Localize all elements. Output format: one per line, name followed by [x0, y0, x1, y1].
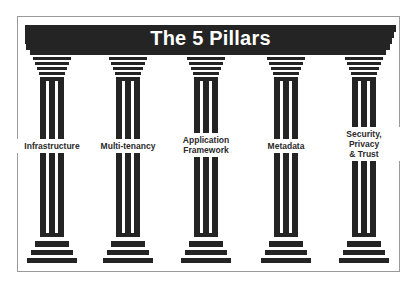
pillar-security-privacy-trust: Security, Privacy & Trust: [334, 56, 394, 266]
pillar-icon: [98, 56, 158, 266]
pillar-icon: [176, 56, 236, 266]
pillar-label-line: Application: [162, 135, 250, 145]
pillar-icon: [256, 56, 316, 266]
pillar-label: Metadata: [242, 139, 330, 153]
pillar-label: Security, Privacy & Trust: [320, 127, 408, 161]
pillar-multi-tenancy: Multi-tenancy: [98, 56, 158, 266]
pillar-label-line: & Trust: [320, 149, 408, 159]
pillar-metadata: Metadata: [256, 56, 316, 266]
pillar-icon: [22, 56, 82, 266]
pillar-infrastructure: Infrastructure: [22, 56, 82, 266]
pillar-label: Infrastructure: [8, 139, 96, 153]
diagram-title: The 5 Pillars: [25, 25, 396, 51]
pillar-label-line: Privacy: [320, 139, 408, 149]
pillar-application-framework: Application Framework: [176, 56, 236, 266]
pillar-icon: [334, 56, 394, 266]
pillar-label: Application Framework: [162, 133, 250, 157]
pillar-label: Multi-tenancy: [84, 139, 172, 153]
pillar-label-line: Framework: [162, 145, 250, 155]
pillar-label-line: Security,: [320, 129, 408, 139]
